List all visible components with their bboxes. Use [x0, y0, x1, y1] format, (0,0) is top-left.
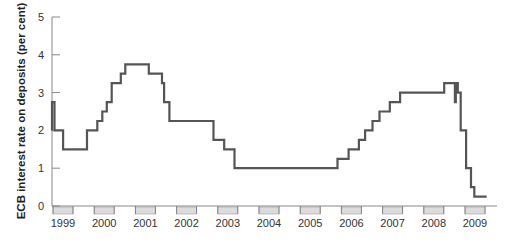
x-tick-label: 2007 — [380, 217, 404, 229]
y-axis-title: ECB interest rate on deposits (per cent) — [15, 3, 27, 220]
year-band — [465, 207, 485, 214]
year-band — [177, 207, 197, 214]
year-band — [218, 207, 238, 214]
x-tick-label: 2005 — [298, 217, 322, 229]
axes — [52, 17, 497, 206]
x-tick-label: 2004 — [257, 217, 281, 229]
x-tick-label: 2000 — [92, 217, 116, 229]
y-tick-label: 4 — [38, 49, 44, 61]
y-tick-label: 5 — [38, 11, 44, 23]
year-band — [135, 207, 155, 214]
y-axis-label: ECB interest rate on deposits (per cent) — [15, 3, 27, 220]
year-band — [300, 207, 320, 214]
x-tick-label: 1999 — [51, 217, 75, 229]
x-tick-label: 2009 — [463, 217, 487, 229]
ecb-rate-chart: ECB interest rate on deposits (per cent)… — [0, 0, 511, 243]
year-bands — [53, 207, 485, 214]
y-tick-label: 1 — [38, 162, 44, 174]
rate-step-line — [52, 64, 487, 196]
y-ticks: 012345 — [38, 11, 60, 212]
y-tick-label: 0 — [38, 200, 44, 212]
x-tick-label: 2003 — [216, 217, 240, 229]
x-tick-label: 2002 — [174, 217, 198, 229]
y-tick-label: 2 — [38, 124, 44, 136]
year-band — [53, 207, 73, 214]
x-tick-label: 2001 — [133, 217, 157, 229]
x-tick-label: 2006 — [339, 217, 363, 229]
y-tick-label: 3 — [38, 87, 44, 99]
year-band — [259, 207, 279, 214]
year-band — [383, 207, 403, 214]
year-band — [94, 207, 114, 214]
x-tick-label: 2008 — [422, 217, 446, 229]
year-band — [341, 207, 361, 214]
year-band — [424, 207, 444, 214]
